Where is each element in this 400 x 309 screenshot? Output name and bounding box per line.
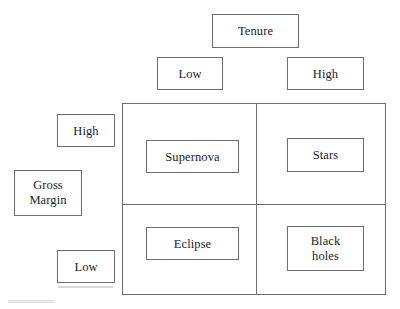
x-axis-high-box: High (287, 57, 364, 90)
x-axis-title-label: Tenure (238, 24, 273, 38)
quadrant-box-black-holes: Black holes (287, 226, 364, 271)
matrix-vertical-divider (256, 104, 257, 294)
x-axis-low-box: Low (157, 57, 223, 90)
y-axis-low-box: Low (57, 250, 115, 283)
y-axis-title-label-line2: Margin (29, 193, 66, 208)
scan-artifact (58, 286, 113, 288)
y-axis-low-label: Low (74, 260, 97, 274)
quadrant-label-black-holes-line1: Black (311, 234, 341, 249)
x-axis-high-label: High (313, 67, 338, 81)
quadrant-box-eclipse: Eclipse (146, 227, 239, 260)
matrix-horizontal-divider (123, 204, 385, 205)
quadrant-label-eclipse: Eclipse (174, 237, 212, 251)
quadrant-label-black-holes-line2: holes (311, 249, 341, 264)
x-axis-title-box: Tenure (212, 14, 299, 48)
y-axis-title-label-line1: Gross (29, 178, 66, 193)
scan-artifact-secondary (8, 300, 54, 303)
quadrant-box-stars: Stars (287, 138, 364, 172)
quadrant-label-supernova: Supernova (165, 150, 219, 164)
x-axis-low-label: Low (178, 67, 201, 81)
quadrant-label-stars: Stars (313, 148, 339, 162)
quadrant-box-supernova: Supernova (146, 140, 239, 173)
y-axis-high-box: High (57, 114, 115, 147)
y-axis-title-box: Gross Margin (14, 170, 82, 216)
matrix-diagram-canvas: Tenure Low High High Gross Margin Low Su… (0, 0, 400, 309)
y-axis-high-label: High (73, 124, 98, 138)
